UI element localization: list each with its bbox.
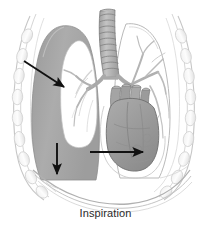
lung-air-cavity — [61, 41, 97, 148]
trachea — [99, 9, 119, 78]
anatomy-illustration — [0, 0, 211, 233]
left-lung-shaded — [32, 26, 100, 180]
figure-container: Inspiration — [0, 0, 211, 233]
figure-caption: Inspiration — [0, 207, 211, 219]
